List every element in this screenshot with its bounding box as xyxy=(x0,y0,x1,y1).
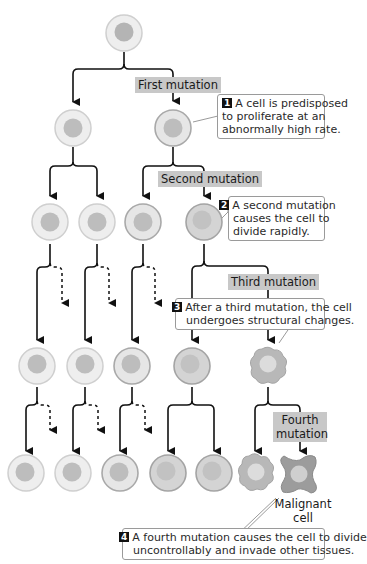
fourth-mutation-label: Fourth mutation xyxy=(273,412,327,442)
callout-1-line2: to proliferate at an xyxy=(222,110,320,123)
malignant-line2: cell xyxy=(272,511,334,525)
third-mutation-label: Third mutation xyxy=(228,274,319,290)
callout-3-number: 3 xyxy=(172,302,182,312)
cell-normal-row1 xyxy=(106,15,142,51)
callout-3-line1: After a third mutation, the cell xyxy=(185,301,352,314)
cell-normal-row2 xyxy=(55,110,91,146)
first-mutation-label: First mutation xyxy=(135,77,221,93)
callout-2-line3: divide rapidly. xyxy=(233,225,320,238)
cell-third-mutation-jagged-row5 xyxy=(238,454,273,491)
cell-second-mutation-row5b xyxy=(196,455,232,491)
cell-normal-row3b xyxy=(79,204,115,240)
second-mutation-label: Second mutation xyxy=(158,171,262,187)
callout-4-number: 4 xyxy=(119,532,129,542)
cell-second-mutation-row4 xyxy=(174,348,210,384)
callout-4-line2: uncontrollably and invade other tissues. xyxy=(125,544,320,557)
callout-2: 2A second mutation causes the cell to di… xyxy=(228,196,325,241)
callout-2-number: 2 xyxy=(219,200,229,210)
cell-normal-row3a xyxy=(32,204,68,240)
cell-second-mutation-row5a xyxy=(150,455,186,491)
callout-4: 4A fourth mutation causes the cell to di… xyxy=(122,528,325,560)
fourth-mutation-line2: mutation xyxy=(276,427,324,441)
cell-first-mutation-row4 xyxy=(114,348,150,384)
malignant-cell-label: Malignant cell xyxy=(272,497,334,525)
callout-1-line3: abnormally high rate. xyxy=(222,123,320,136)
cell-second-mutation-row3 xyxy=(186,204,222,240)
callout-1: 1A cell is predisposed to proliferate at… xyxy=(217,94,325,139)
cell-normal-row5a xyxy=(8,455,44,491)
callout-2-line1: A second mutation xyxy=(232,199,336,212)
fourth-mutation-line1: Fourth xyxy=(276,413,324,427)
callout-3: 3After a third mutation, the cell underg… xyxy=(175,298,325,330)
callout-3-line2: undergoes structural changes. xyxy=(178,314,320,327)
dashed-connector-lines xyxy=(37,263,155,430)
cell-normal-row4a xyxy=(19,348,55,384)
callout-1-line1: A cell is predisposed xyxy=(235,97,348,110)
cell-third-mutation-jagged-row4 xyxy=(250,347,286,383)
cell-malignant xyxy=(281,456,317,493)
cell-normal-row4b xyxy=(67,348,103,384)
cell-first-mutation-row3 xyxy=(125,204,161,240)
callout-4-line1: A fourth mutation causes the cell to div… xyxy=(132,531,367,544)
malignant-line1: Malignant xyxy=(272,497,334,511)
cell-first-mutation-row5 xyxy=(102,455,138,491)
cell-normal-row5b xyxy=(55,455,91,491)
cell-first-mutation-row2 xyxy=(155,110,191,146)
callout-1-number: 1 xyxy=(222,98,232,108)
callout-2-line2: causes the cell to xyxy=(233,212,320,225)
